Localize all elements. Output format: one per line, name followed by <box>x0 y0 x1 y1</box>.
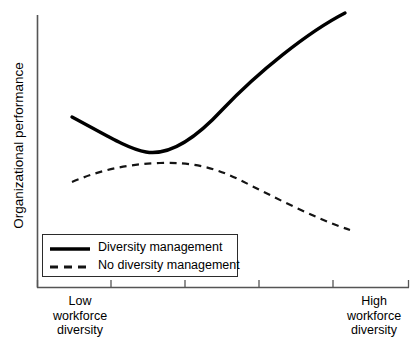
chart-legend: Diversity management No diversity manage… <box>42 234 238 277</box>
series-line-no-diversity-management <box>72 163 350 230</box>
legend-swatch-solid-line-icon <box>49 241 91 253</box>
legend-swatch-dashed-line-icon <box>49 259 91 271</box>
chart-figure: Organizational performance <box>0 0 418 353</box>
legend-label-diversity-management: Diversity management <box>98 241 222 253</box>
x-axis-ticks <box>38 280 409 288</box>
legend-label-no-diversity-management: No diversity management <box>98 259 240 271</box>
legend-item-diversity-management: Diversity management <box>43 238 237 256</box>
series-line-diversity-management <box>72 13 345 153</box>
x-axis-tick-label-high: High workforce diversity <box>330 294 418 338</box>
legend-item-no-diversity-management: No diversity management <box>43 256 237 274</box>
x-axis-tick-label-low: Low workforce diversity <box>32 294 128 338</box>
